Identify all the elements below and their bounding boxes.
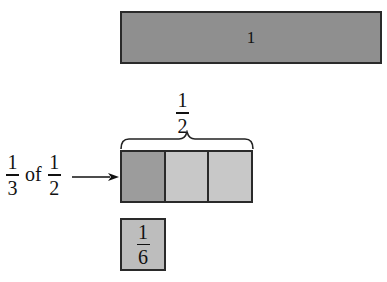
half-numerator: 1 xyxy=(178,90,188,110)
half-bar xyxy=(120,150,253,203)
one-sixth-box: 1 6 xyxy=(120,218,166,271)
one-third-of-one-half-label: 1 3 of 1 2 xyxy=(6,152,61,198)
third-segment-shaded xyxy=(122,152,164,201)
one-sixth-fraction: 1 6 xyxy=(137,222,150,268)
arrow-right-icon xyxy=(72,172,120,182)
fraction-bar xyxy=(6,174,19,176)
fraction-bar xyxy=(48,174,61,176)
numerator: 1 xyxy=(49,152,59,172)
whole-bar: 1 xyxy=(120,11,382,64)
half-fraction-label: 1 2 xyxy=(176,90,189,136)
one-half-fraction: 1 2 xyxy=(48,152,61,198)
curly-brace-icon xyxy=(119,130,255,150)
third-segment xyxy=(164,152,208,201)
third-segment xyxy=(207,152,251,201)
denominator: 3 xyxy=(8,178,18,198)
fraction-bar xyxy=(137,244,150,246)
of-word: of xyxy=(25,163,42,186)
fraction-bar xyxy=(176,112,189,114)
denominator: 2 xyxy=(49,178,59,198)
numerator: 1 xyxy=(8,152,18,172)
whole-bar-label: 1 xyxy=(247,28,256,48)
one-third-fraction: 1 3 xyxy=(6,152,19,198)
denominator: 6 xyxy=(138,247,148,267)
numerator: 1 xyxy=(138,222,148,242)
